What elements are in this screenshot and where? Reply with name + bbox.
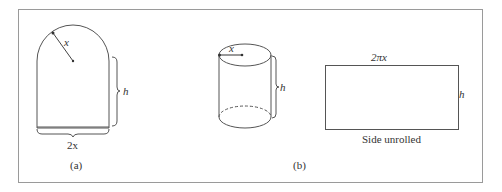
center-dot: [72, 60, 74, 62]
figure-canvas: x h 2x (a) x h (b) 2πx h Side unrolled: [0, 0, 502, 192]
arched-window-shape: [37, 25, 109, 128]
cylinder-bottom-front: [219, 117, 271, 128]
figure-frame: [19, 10, 483, 183]
cylinder-height-brace: [272, 56, 279, 118]
unrolled-side-rectangle: [326, 66, 459, 130]
panel-a-diagram: [37, 25, 120, 137]
panel-b-cylinder: [218, 44, 279, 128]
panel-a-height-label: h: [123, 85, 129, 97]
unrolled-width-label: 2πx: [371, 51, 387, 63]
panel-a-radius-label: x: [63, 36, 69, 48]
panel-b-caption: (b): [293, 159, 306, 172]
cylinder-bottom-back-dashed: [219, 106, 271, 117]
panel-a-caption: (a): [70, 159, 83, 172]
width-brace: [37, 129, 109, 137]
panel-b-height-label: h: [280, 81, 286, 93]
panel-b-radius-label: x: [228, 42, 234, 54]
unrolled-height-label: h: [459, 88, 465, 100]
panel-a-width-label: 2x: [67, 139, 79, 151]
unrolled-caption: Side unrolled: [362, 133, 421, 145]
radius-line: [53, 33, 73, 61]
height-brace: [112, 57, 120, 126]
